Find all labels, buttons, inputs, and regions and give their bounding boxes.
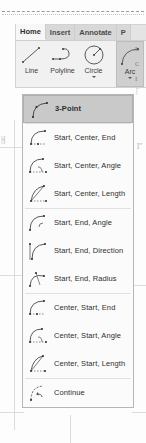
menu-item-label: Continue: [54, 388, 85, 398]
menu-item-3-point[interactable]: 3-Point: [23, 95, 133, 123]
circle-tool-label: Circle: [85, 67, 103, 75]
circle-icon: [81, 43, 107, 67]
arc-start-end-radius-icon: [26, 267, 52, 291]
menu-item-label: Start, Center, Length: [54, 189, 125, 199]
menu-item-center-start-length[interactable]: Center, Start, Length: [23, 350, 133, 378]
horizontal-guide-right-lower: [132, 412, 146, 413]
menu-item-label: Start, Center, End: [54, 133, 115, 143]
menu-item-continue[interactable]: Continue: [23, 379, 133, 407]
menu-item-start-end-direction[interactable]: Start, End, Direction: [23, 237, 133, 265]
menu-item-label: Start, End, Direction: [54, 246, 123, 256]
vertical-guide-center: [70, 415, 71, 443]
horizontal-guide-right-mid: [132, 285, 146, 286]
section-dash-line: [2, 11, 144, 12]
menu-item-label: Center, Start, End: [54, 303, 115, 313]
arc-start-end-direction-icon: [26, 239, 52, 263]
polyline-icon: [50, 43, 76, 67]
arc-dropdown-menu: 3-Point Start, Center, End S: [22, 94, 134, 408]
menu-item-label: Center, Start, Angle: [54, 331, 121, 341]
menu-item-label: Center, Start, Length: [54, 359, 125, 369]
horizontal-guide-left-upper: [0, 147, 22, 148]
polyline-tool-button[interactable]: Polyline: [47, 41, 78, 87]
circle-tool-button[interactable]: Circle: [78, 41, 109, 87]
chevron-down-icon[interactable]: [128, 77, 132, 79]
menu-item-start-end-radius[interactable]: Start, End, Radius: [23, 265, 133, 293]
arc-center-start-angle-icon: [26, 324, 52, 348]
horizontal-guide-left-lower: [0, 412, 24, 413]
tab-home[interactable]: Home: [16, 24, 46, 40]
ribbon: Home Insert Annotate P Line: [15, 24, 146, 88]
menu-item-start-center-length[interactable]: Start, Center, Length: [23, 180, 133, 208]
chevron-down-icon[interactable]: [92, 76, 96, 78]
menu-item-start-center-angle[interactable]: Start, Center, Angle: [23, 152, 133, 180]
polyline-tool-label: Polyline: [50, 67, 75, 75]
section-dash-line-secondary: [2, 14, 144, 15]
arc-start-center-length-icon: [26, 182, 52, 206]
tab-parametric[interactable]: P: [117, 25, 131, 40]
menu-item-label: 3-Point: [55, 104, 81, 114]
arc-start-end-angle-icon: [26, 211, 52, 235]
tab-insert[interactable]: Insert: [46, 25, 75, 40]
arc-3-point-icon: [27, 97, 53, 121]
arc-start-center-end-icon: [26, 126, 52, 150]
dimension-mark-left: |-||: [1, 135, 4, 144]
arc-center-start-length-icon: [26, 352, 52, 376]
menu-item-label: Start, End, Angle: [54, 218, 112, 228]
arc-center-start-end-icon: [26, 296, 52, 320]
menu-item-start-end-angle[interactable]: Start, End, Angle: [23, 209, 133, 237]
horizontal-guide-left-mid: [0, 275, 22, 276]
line-tool-button[interactable]: Line: [16, 41, 47, 87]
line-icon: [19, 43, 45, 67]
menu-item-label: Start, End, Radius: [54, 274, 117, 284]
arc-tool-label: Arc: [125, 68, 136, 76]
draw-panel: Line Polyline: [16, 41, 146, 87]
line-tool-label: Line: [25, 67, 38, 75]
menu-item-center-start-angle[interactable]: Center, Start, Angle: [23, 322, 133, 350]
ribbon-tab-strip: Home Insert Annotate P: [16, 25, 146, 41]
clipped-panel-edge-icons: L C I: [135, 41, 146, 87]
clipped-glyph-3: I: [135, 75, 137, 83]
menu-item-label: Start, Center, Angle: [54, 161, 121, 171]
clipped-glyph-1: L: [135, 45, 139, 53]
menu-item-center-start-end[interactable]: Center, Start, End: [23, 294, 133, 322]
arc-continue-icon: [26, 381, 52, 405]
clipped-glyph-2: C: [135, 60, 140, 68]
tab-annotate[interactable]: Annotate: [75, 25, 117, 40]
menu-item-start-center-end[interactable]: Start, Center, End: [23, 124, 133, 152]
arc-start-center-angle-icon: [26, 154, 52, 178]
